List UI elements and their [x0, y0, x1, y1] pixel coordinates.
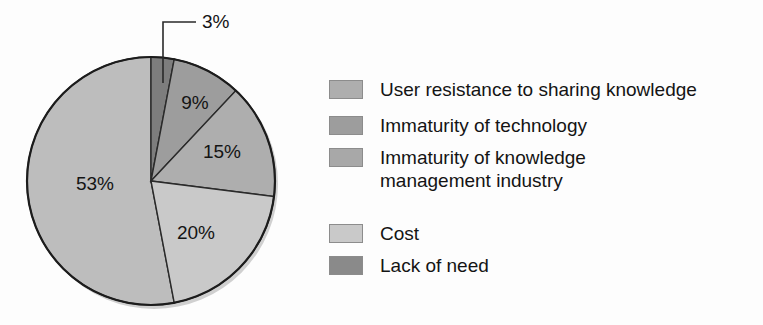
pie-label-3-percent: 3%	[202, 11, 229, 33]
legend-swatch-icon-immaturity-technology	[329, 116, 363, 135]
legend-swatch-icon-lack-of-need	[329, 256, 363, 275]
legend-item-immaturity-km-industry[interactable]: Immaturity of knowledge management indus…	[329, 146, 586, 192]
pie-label-20-percent: 20%	[177, 222, 215, 244]
chart-page: 9% 15% 20% 53% 3% User resistance to sha…	[0, 0, 763, 325]
pie-label-53-percent: 53%	[76, 173, 114, 195]
legend-item-lack-of-need[interactable]: Lack of need	[329, 254, 489, 277]
legend-label-user-resistance: User resistance to sharing knowledge	[380, 78, 697, 101]
legend-swatch-icon-user-resistance	[329, 80, 363, 99]
legend-item-user-resistance[interactable]: User resistance to sharing knowledge	[329, 78, 697, 101]
legend-label-cost: Cost	[380, 222, 419, 245]
legend-swatch-icon-cost	[329, 224, 363, 243]
pie-label-9-percent: 9%	[181, 92, 208, 114]
pie-label-15-percent: 15%	[203, 141, 241, 163]
legend-label-immaturity-technology: Immaturity of technology	[380, 114, 587, 137]
pie-chart: 9% 15% 20% 53% 3%	[0, 0, 320, 325]
legend-item-immaturity-technology[interactable]: Immaturity of technology	[329, 114, 587, 137]
legend-label-immaturity-km-industry: Immaturity of knowledge management indus…	[380, 146, 586, 192]
legend-swatch-icon-immaturity-km-industry	[329, 148, 363, 167]
pie-chart-svg	[0, 0, 320, 325]
legend-label-lack-of-need: Lack of need	[380, 254, 489, 277]
legend-item-cost[interactable]: Cost	[329, 222, 419, 245]
